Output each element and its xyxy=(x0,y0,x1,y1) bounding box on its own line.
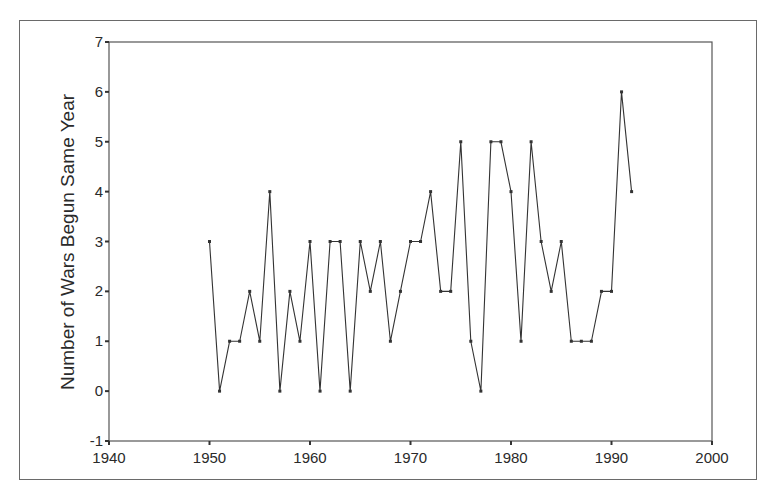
x-tick-label: 1950 xyxy=(193,449,226,466)
data-point-marker xyxy=(208,240,211,243)
y-tick-label: 4 xyxy=(95,183,103,200)
y-tick-label: 6 xyxy=(95,83,103,100)
data-point-marker xyxy=(409,240,412,243)
x-tick-label: 1990 xyxy=(595,449,628,466)
data-point-marker xyxy=(600,290,603,293)
x-tick-label: 1940 xyxy=(92,449,125,466)
y-tick-label: 1 xyxy=(95,332,103,349)
data-point-marker xyxy=(570,340,573,343)
data-point-marker xyxy=(469,340,472,343)
data-point-marker xyxy=(489,140,492,143)
data-point-marker xyxy=(228,340,231,343)
data-point-marker xyxy=(258,340,261,343)
data-point-marker xyxy=(238,340,241,343)
data-point-marker xyxy=(329,240,332,243)
data-point-marker xyxy=(479,390,482,393)
data-series xyxy=(208,90,633,392)
data-point-marker xyxy=(278,390,281,393)
y-tick-label: 0 xyxy=(95,382,103,399)
y-axis-title: Number of Wars Begun Same Year xyxy=(57,93,78,390)
data-point-marker xyxy=(379,240,382,243)
y-axis: -101234567 xyxy=(90,33,109,449)
data-point-marker xyxy=(439,290,442,293)
y-tick-label: -1 xyxy=(90,432,103,449)
data-point-marker xyxy=(540,240,543,243)
data-point-marker xyxy=(620,90,623,93)
y-tick-label: 3 xyxy=(95,233,103,250)
x-tick-label: 1970 xyxy=(394,449,427,466)
y-tick-label: 5 xyxy=(95,133,103,150)
y-tick-label: 7 xyxy=(95,33,103,50)
data-point-marker xyxy=(339,240,342,243)
data-point-marker xyxy=(248,290,251,293)
data-point-marker xyxy=(369,290,372,293)
data-point-marker xyxy=(560,240,563,243)
data-point-marker xyxy=(510,190,513,193)
data-point-marker xyxy=(499,140,502,143)
data-point-marker xyxy=(319,390,322,393)
data-point-marker xyxy=(530,140,533,143)
x-tick-label: 2000 xyxy=(695,449,728,466)
data-point-marker xyxy=(610,290,613,293)
data-point-marker xyxy=(389,340,392,343)
data-point-marker xyxy=(580,340,583,343)
data-point-marker xyxy=(520,340,523,343)
data-point-marker xyxy=(399,290,402,293)
data-point-marker xyxy=(218,390,221,393)
data-point-marker xyxy=(429,190,432,193)
x-tick-label: 1960 xyxy=(293,449,326,466)
x-axis: 1940195019601970198019902000 xyxy=(92,441,728,466)
data-point-marker xyxy=(309,240,312,243)
line-chart: -101234567 1940195019601970198019902000 … xyxy=(0,0,777,494)
data-point-marker xyxy=(550,290,553,293)
data-point-marker xyxy=(459,140,462,143)
data-point-marker xyxy=(449,290,452,293)
data-point-marker xyxy=(268,190,271,193)
data-point-marker xyxy=(590,340,593,343)
data-point-marker xyxy=(349,390,352,393)
data-point-marker xyxy=(630,190,633,193)
y-tick-label: 2 xyxy=(95,282,103,299)
data-point-marker xyxy=(359,240,362,243)
data-point-marker xyxy=(298,340,301,343)
data-point-marker xyxy=(288,290,291,293)
data-point-marker xyxy=(419,240,422,243)
x-tick-label: 1980 xyxy=(494,449,527,466)
